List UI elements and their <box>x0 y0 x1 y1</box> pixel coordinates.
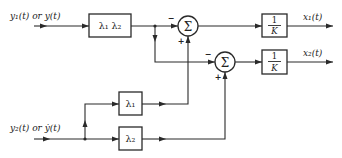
block-lambda1-label: λ₁ <box>126 98 136 109</box>
wire-branch-to-lambda1 <box>85 104 119 120</box>
input-y1-label: y₁(t) or y(t) <box>9 11 61 21</box>
block-diagram: y₁(t) or y(t) λ₁ λ₂ Σ − + 1 K x₁(t) Σ − … <box>0 0 342 158</box>
summer-1-symbol: Σ <box>184 20 192 34</box>
summer-2-minus-sign: − <box>205 50 212 59</box>
block-lambda1-lambda2-label: λ₁ λ₂ <box>99 20 122 31</box>
summer-2-plus-sign: + <box>215 73 222 82</box>
block-lambda2-label: λ₂ <box>126 133 136 144</box>
input-y2-label: y₂(t) or ẏ(t) <box>9 123 61 133</box>
gain-1-denominator: K <box>270 26 278 36</box>
gain-1-numerator: 1 <box>272 15 277 25</box>
gain-2-denominator: K <box>270 63 278 73</box>
output-x1-label: x₁(t) <box>303 12 323 22</box>
summer-2-symbol: Σ <box>221 56 229 70</box>
summer-1-minus-sign: − <box>168 14 175 23</box>
wire-lambda1-to-sum1 <box>166 36 188 104</box>
gain-2-numerator: 1 <box>272 51 277 61</box>
output-x2-label: x₂(t) <box>303 48 323 58</box>
summer-1-plus-sign: + <box>178 37 185 46</box>
wire-lambda2-to-sum2 <box>166 72 225 139</box>
